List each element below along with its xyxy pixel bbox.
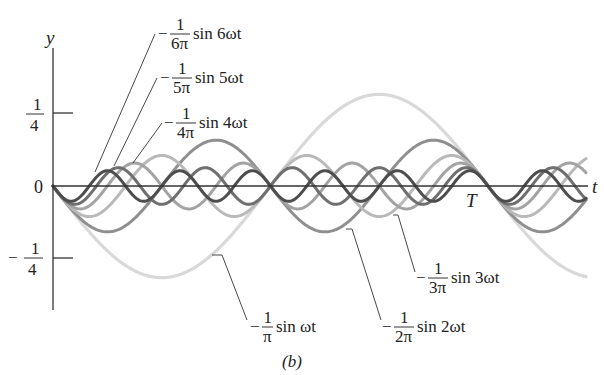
annotation-minus-sign: −: [158, 24, 168, 43]
annotation-function: sin 6ωt: [193, 24, 242, 43]
tick-neg-denominator: 4: [28, 260, 37, 279]
annotation-minus-sign: −: [416, 268, 426, 287]
annotation-numerator: 1: [434, 259, 443, 278]
figure-caption: (b): [282, 352, 302, 371]
annotation-minus-sign: −: [382, 317, 392, 336]
y-axis-label: y: [44, 27, 55, 48]
tick-pos-numerator: 1: [33, 95, 42, 114]
annotation-denominator: 3π: [429, 278, 447, 297]
annotation-minus-sign: −: [160, 68, 170, 87]
annotation-denominator: π: [263, 327, 272, 346]
annotation-numerator: 1: [264, 308, 273, 327]
t-axis-label: t: [592, 176, 598, 197]
annotation-function: sin ωt: [276, 317, 316, 336]
annotation-function: sin 4ωt: [199, 113, 248, 132]
annotation-minus-sign: −: [164, 113, 174, 132]
annotation-harmonic-6: −16πsin 6ωt: [95, 15, 242, 172]
tick-neg-sign: −: [8, 248, 18, 267]
annotation-denominator: 5π: [173, 78, 191, 97]
leader-line: [95, 34, 155, 172]
origin-label: 0: [34, 177, 43, 197]
period-label: T: [466, 190, 478, 211]
fourier-components-figure: y t 0 T 1 4 − 1 4 −16πsin 6ωt−15πsin 5ωt…: [0, 0, 604, 375]
annotation-numerator: 1: [178, 59, 187, 78]
tick-pos-denominator: 4: [30, 116, 39, 135]
annotation-function: sin 2ωt: [417, 317, 466, 336]
annotation-numerator: 1: [400, 308, 409, 327]
annotation-denominator: 6π: [171, 34, 189, 53]
leader-line: [212, 255, 247, 320]
annotation-harmonic-2: −12πsin 2ωt: [346, 229, 466, 346]
annotation-numerator: 1: [182, 104, 191, 123]
annotation-denominator: 2π: [395, 327, 413, 346]
annotation-minus-sign: −: [250, 317, 260, 336]
annotation-denominator: 4π: [177, 123, 195, 142]
leader-line: [393, 215, 415, 272]
leader-line: [346, 229, 381, 320]
annotation-numerator: 1: [176, 15, 185, 34]
annotation-harmonic-1: −1πsin ωt: [212, 255, 316, 346]
annotation-function: sin 5ωt: [195, 68, 244, 87]
annotation-function: sin 3ωt: [451, 268, 500, 287]
tick-neg-numerator: 1: [31, 239, 40, 258]
leader-line: [114, 78, 157, 166]
annotation-harmonic-3: −13πsin 3ωt: [393, 215, 500, 297]
